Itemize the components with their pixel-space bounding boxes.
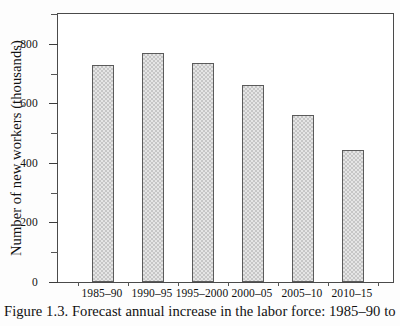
y-minor-tick-100 [51, 252, 58, 253]
y-tick-800: 800 [49, 44, 58, 45]
y-tick-label-0: 0 [32, 277, 38, 289]
bar-2005-10[interactable] [292, 115, 314, 282]
y-minor-tick-500 [51, 133, 58, 134]
x-axis-label-1995-2000: 1995–2000 [176, 287, 229, 299]
figure-caption: Figure 1.3. Forecast annual increase in … [4, 303, 398, 320]
figure-container: Number of new workers (thousands) 0 200 … [0, 0, 400, 326]
x-axis-label-1985-90: 1985–90 [82, 287, 123, 299]
y-tick-label-200: 200 [20, 218, 38, 230]
bar-2000-05[interactable] [242, 85, 264, 282]
x-axis-label-2000-05: 2000–05 [232, 287, 273, 299]
x-tick-2 [178, 282, 179, 286]
y-tick-0: 0 [49, 282, 58, 283]
x-tick-6 [378, 282, 379, 286]
x-axis-label-2010-15: 2010–15 [332, 287, 373, 299]
x-tick-4 [278, 282, 279, 286]
bar-1985-90[interactable] [92, 65, 114, 282]
x-tick-0 [78, 282, 79, 286]
x-tick-5 [328, 282, 329, 286]
bar-1995-2000[interactable] [192, 63, 214, 282]
x-axis-label-1990-95: 1990–95 [132, 287, 173, 299]
y-minor-tick-300 [51, 193, 58, 194]
y-tick-400: 400 [49, 163, 58, 164]
x-tick-1 [128, 282, 129, 286]
bar-1990-95[interactable] [142, 53, 164, 282]
y-minor-tick-900 [51, 14, 58, 15]
plot-area: 0 200 400 600 800 [58, 14, 393, 282]
y-tick-label-400: 400 [20, 158, 38, 170]
bar-2010-15[interactable] [342, 150, 364, 283]
y-tick-label-600: 600 [20, 99, 38, 111]
plot-frame: 0 200 400 600 800 [57, 13, 394, 283]
x-axis-label-2005-10: 2005–10 [282, 287, 323, 299]
y-axis-title: Number of new workers (thousands) [6, 13, 26, 283]
x-tick-3 [228, 282, 229, 286]
y-tick-label-800: 800 [20, 39, 38, 51]
y-tick-600: 600 [49, 103, 58, 104]
y-minor-tick-700 [51, 74, 58, 75]
y-tick-200: 200 [49, 222, 58, 223]
